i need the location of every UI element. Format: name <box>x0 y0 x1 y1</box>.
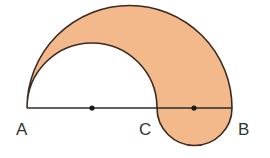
label-b: B <box>238 120 249 139</box>
label-c: C <box>139 120 151 139</box>
geometry-figure: A C B <box>0 0 270 158</box>
midpoint-cb <box>191 105 196 110</box>
midpoint-ac <box>89 105 94 110</box>
label-a: A <box>16 120 28 139</box>
shaded-region <box>27 5 232 145</box>
